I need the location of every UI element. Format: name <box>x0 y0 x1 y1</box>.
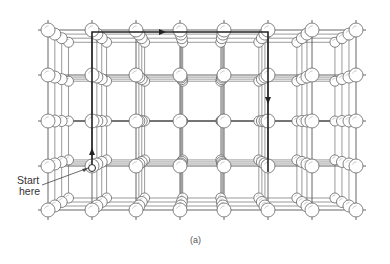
arrow-up-icon <box>89 148 95 155</box>
arrow-down-icon <box>265 97 271 104</box>
figure-caption: (a) <box>190 235 201 246</box>
start-label-line2: here <box>17 186 40 197</box>
crystal-lattice-diagram <box>0 0 390 264</box>
lattice-atoms <box>41 23 363 217</box>
traversal-path <box>42 29 271 185</box>
start-here-label: Start here <box>17 175 40 197</box>
